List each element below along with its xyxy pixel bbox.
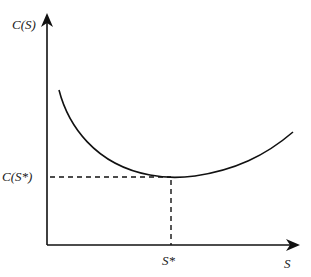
x-axis-label: S — [284, 256, 291, 271]
optimal-s-label: S* — [162, 253, 176, 268]
y-axis-label: C(S) — [12, 17, 36, 32]
cost-curve — [59, 90, 293, 177]
min-cost-label: C(S*) — [2, 169, 32, 184]
cost-curve-diagram: C(S) C(S*) S* S — [0, 0, 311, 277]
y-axis — [41, 13, 53, 245]
x-axis — [47, 239, 300, 251]
